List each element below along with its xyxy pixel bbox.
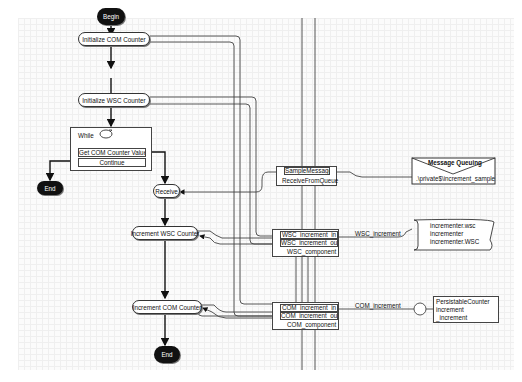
sample-message-port[interactable]: SampleMessage	[284, 167, 330, 175]
get-com-counter-value-step[interactable]: Get COM Counter Value	[78, 148, 146, 157]
end-bottom-node[interactable]: End	[154, 346, 180, 363]
wsc-increment-in-port[interactable]: WSC_increment_in	[280, 231, 338, 239]
queue-path-label: .\private$\increment_sample	[416, 175, 495, 182]
wsc-script-name: incrementer	[430, 230, 479, 238]
com-class-box[interactable]: PersistableCounter increment _increment	[433, 296, 499, 323]
receive-node[interactable]: Receive	[153, 184, 180, 198]
wsc-script-file: incrementer.wsc	[430, 222, 479, 230]
init-wsc-counter-node[interactable]: Initialize WSC Counter	[78, 93, 150, 107]
init-com-counter-node[interactable]: Initialize COM Counter	[78, 32, 150, 46]
wsc-increment-link-label: WSC_increment	[355, 230, 401, 237]
com-increment-out-port[interactable]: COM_increment_out	[280, 312, 338, 320]
receive-from-queue-label: ReceiveFromQueue	[282, 177, 338, 184]
com-class-name: PersistableCounter	[436, 298, 496, 306]
com-component-label: COM_component	[287, 321, 336, 328]
end-left-node[interactable]: End	[37, 181, 63, 195]
increment-com-counter-node[interactable]: Increment COM Counter	[132, 300, 202, 314]
message-queuing-title: Message Queuing	[428, 159, 482, 166]
com-class-interface: _increment	[436, 314, 496, 322]
wsc-component-label: WSC_component	[287, 248, 336, 255]
while-label: While	[78, 132, 94, 139]
wsc-script-info: incrementer.wsc incrementer incrementer.…	[430, 222, 479, 246]
increment-wsc-counter-node[interactable]: Increment WSC Counter	[132, 226, 198, 240]
connector-lines	[0, 0, 522, 382]
com-increment-in-port[interactable]: COM_increment_in	[280, 304, 338, 312]
wsc-increment-out-port[interactable]: WSC_increment_out	[280, 239, 338, 247]
continue-step[interactable]: Continue	[78, 158, 146, 167]
loop-icon	[98, 128, 114, 140]
com-increment-link-label: COM_increment	[355, 302, 401, 309]
wsc-script-progid: incrementer.WSC	[430, 238, 479, 246]
com-class-method: increment	[436, 306, 496, 314]
begin-node[interactable]: Begin	[97, 8, 125, 25]
